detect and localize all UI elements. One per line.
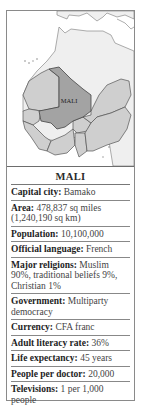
- fact-label: Adult literacy rate:: [11, 338, 89, 348]
- facts-panel: MALI Capital city: Bamako Area: 478,837 …: [7, 167, 134, 407]
- fact-row-literacy: Adult literacy rate: 36%: [11, 336, 130, 352]
- fact-label: Capital city:: [11, 187, 61, 197]
- fact-label: Population:: [11, 229, 59, 239]
- map-svg: MALI: [7, 11, 134, 166]
- fact-value: CFA franc: [55, 322, 94, 332]
- fact-label: Official language:: [11, 244, 84, 254]
- fact-label: Televisions:: [11, 384, 58, 394]
- fact-row-religions: Major religions: Muslim 90%, traditional…: [11, 258, 130, 295]
- fact-row-area: Area: 478,837 sq miles (1,240,190 sq km): [11, 201, 130, 227]
- fact-row-population: Population: 10,100,000: [11, 227, 130, 243]
- fact-label: Life expectancy:: [11, 353, 78, 363]
- fact-value: 36%: [91, 338, 108, 348]
- fact-row-language: Official language: French: [11, 242, 130, 258]
- island: [102, 156, 103, 157]
- island: [108, 146, 110, 148]
- fact-row-currency: Currency: CFA franc: [11, 320, 130, 336]
- fact-row-televisions: Televisions: 1 per 1,000 people: [11, 382, 130, 407]
- fact-label: Area:: [11, 203, 34, 213]
- country-fact-card: MALI MALI Capital city: Bamako Area: 478…: [6, 10, 135, 401]
- fact-label: Major religions:: [11, 260, 77, 270]
- map-label-mali: MALI: [61, 97, 78, 104]
- fact-value: 45 years: [80, 353, 112, 363]
- fact-row-government: Government: Multiparty democracy: [11, 294, 130, 320]
- country-title: MALI: [11, 167, 130, 185]
- fact-row-people-per-doctor: People per doctor: 20,000: [11, 367, 130, 383]
- fact-label: Government:: [11, 296, 65, 306]
- fact-label: Currency:: [11, 322, 53, 332]
- fact-row-capital: Capital city: Bamako: [11, 185, 130, 201]
- fact-value: 20,000: [88, 369, 114, 379]
- fact-row-life-expectancy: Life expectancy: 45 years: [11, 351, 130, 367]
- locator-map: MALI: [7, 11, 134, 167]
- fact-label: People per doctor:: [11, 369, 86, 379]
- fact-value: 10,100,000: [61, 229, 104, 239]
- fact-value: French: [86, 244, 112, 254]
- fact-value: Bamako: [64, 187, 96, 197]
